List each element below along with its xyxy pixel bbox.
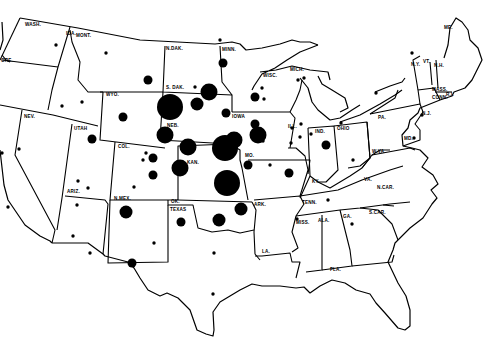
label-ala: ALA. — [318, 218, 330, 223]
symbol-small — [80, 100, 83, 103]
symbol-small — [412, 136, 415, 139]
label-ga: GA. — [343, 214, 352, 219]
label-ri: R.I. — [446, 92, 454, 97]
symbol-small — [218, 38, 221, 41]
symbol-medium — [222, 109, 231, 118]
label-iowa: IOWA — [232, 114, 246, 119]
symbol-small — [6, 205, 9, 208]
label-mo: MO. — [245, 153, 254, 158]
symbol-small — [295, 217, 298, 220]
coastline — [0, 18, 482, 336]
symbol-medium — [88, 135, 97, 144]
symbol-small — [350, 222, 353, 225]
symbol-small — [212, 251, 215, 254]
label-miss: MISS. — [296, 220, 310, 225]
label-fla: FLA. — [330, 267, 341, 272]
symbol-very-large — [214, 170, 240, 196]
label-ok: OK. — [171, 199, 180, 204]
symbol-small — [76, 179, 79, 182]
symbol-small — [60, 104, 63, 107]
us-map: WASH. ORE. IDA. MONT. N.DAK. MINN. WYO. … — [0, 0, 493, 354]
label-ariz: ARIZ. — [67, 189, 80, 194]
label-scar: S.CAR. — [369, 210, 386, 215]
symbol-small — [144, 151, 147, 154]
symbol-small — [141, 158, 144, 161]
symbol-small — [351, 158, 354, 161]
symbol-small — [104, 51, 107, 54]
symbol-small — [290, 126, 293, 129]
symbol-small — [75, 203, 78, 206]
symbol-large — [172, 160, 189, 177]
symbol-small — [0, 151, 3, 154]
symbol-small — [261, 139, 264, 142]
symbol-medium — [251, 93, 260, 102]
symbol-small — [54, 43, 57, 46]
symbol-very-large — [157, 94, 183, 120]
symbol-medium-large — [191, 98, 204, 111]
symbol-medium — [149, 154, 158, 163]
symbol-small — [132, 185, 135, 188]
symbol-small — [260, 86, 263, 89]
symbol-small — [71, 234, 74, 237]
symbol-medium-large — [235, 203, 248, 216]
label-nmex: N.MEX. — [114, 196, 131, 201]
symbol-large — [157, 127, 174, 144]
label-wisc: WISC. — [263, 73, 277, 78]
symbol-small — [86, 186, 89, 189]
label-wash: WASH. — [25, 22, 41, 27]
symbol-small — [410, 51, 413, 54]
symbol-small — [299, 122, 302, 125]
symbol-small — [339, 121, 342, 124]
symbol-medium — [149, 171, 158, 180]
symbol-large — [226, 132, 243, 149]
label-nev: NEV. — [24, 114, 35, 119]
label-ore: ORE. — [1, 58, 13, 63]
symbol-medium — [219, 59, 228, 68]
label-wyo: WYO. — [106, 92, 119, 97]
label-col: COL. — [118, 144, 130, 149]
label-ny: N.Y. — [411, 62, 420, 67]
symbol-small — [152, 241, 155, 244]
symbol-medium — [244, 161, 253, 170]
symbol-small — [309, 132, 312, 135]
symbol-small — [262, 97, 265, 100]
symbol-small — [17, 147, 20, 150]
label-minn: MINN. — [222, 47, 236, 52]
symbol-small — [296, 78, 299, 81]
label-utah: UTAH — [74, 126, 88, 131]
label-mont: MONT. — [76, 33, 91, 38]
symbol-small — [211, 292, 214, 295]
label-kan: KAN. — [187, 160, 199, 165]
label-md: MD. — [404, 136, 413, 141]
label-tenn: TENN. — [302, 200, 317, 205]
proportional-symbols — [0, 38, 423, 295]
label-texas: TEXAS — [170, 207, 186, 212]
symbol-small — [326, 198, 329, 201]
label-la: LA. — [262, 249, 270, 254]
symbol-large — [201, 84, 218, 101]
label-ncar: N.CAR. — [377, 185, 394, 190]
label-sdak: S. DAK. — [166, 85, 184, 90]
symbol-medium — [322, 141, 331, 150]
symbol-medium-large — [213, 214, 226, 227]
symbol-small — [88, 251, 91, 254]
label-va: VA. — [364, 177, 372, 182]
label-wva: W.VA. — [372, 149, 386, 154]
symbol-small — [374, 91, 377, 94]
symbol-small — [298, 135, 301, 138]
label-pa: PA. — [378, 115, 386, 120]
symbol-medium-large — [120, 206, 133, 219]
symbol-medium — [128, 259, 137, 268]
label-neb: NEB. — [167, 123, 179, 128]
label-vt: VT. — [423, 59, 430, 64]
symbol-small — [268, 163, 271, 166]
symbol-small — [302, 76, 305, 79]
label-ky: KY. — [312, 179, 320, 184]
symbol-medium — [144, 76, 153, 85]
symbol-large — [180, 139, 197, 156]
symbol-small — [420, 113, 423, 116]
label-nh: N.H. — [434, 63, 444, 68]
label-ark: ARK. — [254, 202, 266, 207]
symbol-small — [193, 85, 196, 88]
label-ohio: OHIO — [337, 126, 350, 131]
